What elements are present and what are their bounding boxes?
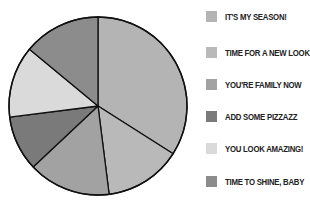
pie-chart: [0, 0, 200, 205]
legend-label: YOU LOOK AMAZING!: [225, 143, 303, 154]
legend-swatch: [206, 111, 217, 122]
legend-label: YOU'RE FAMILY NOW: [225, 79, 301, 90]
legend-label: IT'S MY SEASON!: [225, 11, 287, 22]
legend-item-time-to-shine-baby: TIME TO SHINE, BABY: [206, 174, 310, 188]
legend-label: ADD SOME PIZZAZZ: [225, 111, 297, 122]
legend-swatch: [206, 143, 217, 154]
legend-item-time-for-a-new-look: TIME FOR A NEW LOOK: [206, 45, 310, 59]
legend-item-add-some-pizzazz: ADD SOME PIZZAZZ: [206, 109, 310, 123]
legend-item-you-look-amazing: YOU LOOK AMAZING!: [206, 141, 310, 155]
legend-label: TIME FOR A NEW LOOK: [225, 47, 310, 58]
legend-swatch: [206, 47, 217, 58]
legend-label: TIME TO SHINE, BABY: [225, 176, 304, 187]
legend-swatch: [206, 176, 217, 187]
legend-swatch: [206, 79, 217, 90]
legend-swatch: [206, 11, 217, 22]
legend-item-its-my-season: IT'S MY SEASON!: [206, 9, 300, 23]
legend-item-youre-family-now: YOU'RE FAMILY NOW: [206, 77, 310, 91]
